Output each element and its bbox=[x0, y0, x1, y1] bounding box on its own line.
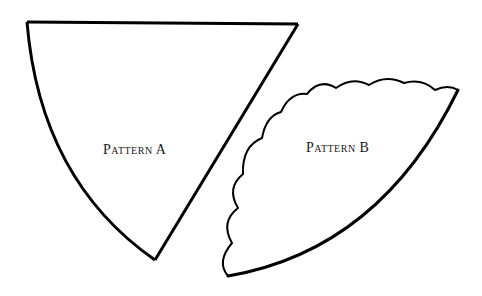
pattern-b-label: Pattern B bbox=[306, 141, 369, 155]
pattern-b-curved-edge bbox=[228, 90, 458, 276]
pattern-a-top-edge bbox=[27, 22, 298, 24]
pattern-b-shape bbox=[223, 79, 458, 276]
pattern-diagram bbox=[0, 0, 482, 296]
pattern-a-label: Pattern A bbox=[103, 143, 166, 157]
pattern-a-curved-edge bbox=[27, 22, 155, 260]
pattern-b-scalloped-edge bbox=[223, 79, 458, 276]
